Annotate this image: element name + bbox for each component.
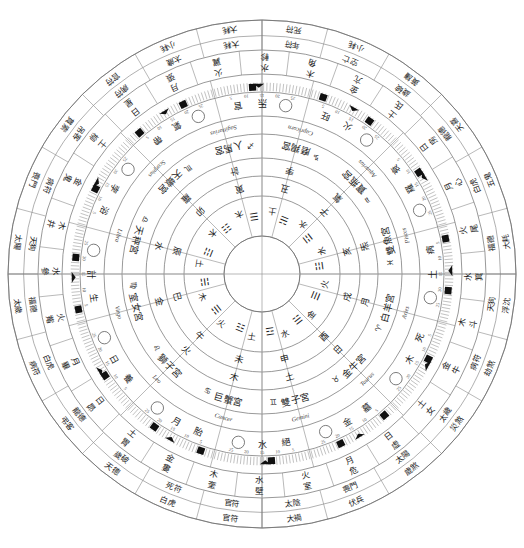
svg-text:土: 土	[427, 270, 438, 279]
svg-text:火: 火	[213, 67, 224, 79]
svg-text:胎: 胎	[192, 424, 204, 438]
svg-text:水: 水	[315, 245, 328, 257]
svg-text:Pisces: Pisces	[399, 227, 410, 246]
svg-text:小耗: 小耗	[347, 39, 365, 53]
svg-text:♏: ♏	[182, 163, 194, 175]
svg-text:土: 土	[267, 205, 277, 216]
svg-text:20: 20	[437, 286, 442, 292]
svg-text:天喜: 天喜	[448, 115, 466, 134]
svg-text:雙魚宮: 雙魚宮	[378, 224, 396, 256]
svg-text:水: 水	[255, 475, 264, 485]
svg-text:福德: 福德	[485, 235, 497, 252]
svg-text:翼: 翼	[210, 56, 221, 68]
svg-text:斗: 斗	[467, 319, 479, 330]
svg-text:福德: 福德	[27, 296, 39, 313]
svg-text:大禍: 大禍	[285, 512, 302, 524]
svg-text:水: 水	[51, 267, 61, 276]
svg-text:10: 10	[275, 449, 281, 454]
svg-text:戌: 戌	[340, 291, 353, 303]
svg-text:吊客: 吊客	[70, 124, 88, 143]
svg-text:土: 土	[247, 332, 257, 343]
svg-text:25: 25	[83, 240, 89, 246]
svg-text:官: 官	[233, 100, 243, 112]
svg-text:10: 10	[243, 93, 249, 98]
svg-text:25: 25	[435, 302, 441, 308]
svg-text:Leo: Leo	[151, 372, 163, 384]
svg-text:官符: 官符	[223, 497, 240, 509]
svg-text:Libra: Libra	[114, 227, 125, 243]
svg-text:心: 心	[452, 176, 465, 188]
svg-text:箕: 箕	[474, 272, 484, 281]
svg-text:10: 10	[437, 255, 442, 261]
svg-text:5: 5	[91, 211, 97, 216]
svg-text:小耗: 小耗	[159, 39, 177, 53]
svg-text:太歲: 太歲	[12, 297, 24, 314]
svg-text:Cancer: Cancer	[214, 411, 234, 423]
svg-text:25: 25	[91, 332, 98, 339]
svg-text:歲破: 歲破	[393, 82, 412, 100]
svg-text:亥: 亥	[340, 246, 353, 258]
svg-text:☳: ☳	[234, 321, 246, 335]
svg-text:孛: 孛	[284, 165, 296, 178]
svg-text:金: 金	[153, 296, 166, 308]
svg-text:墓: 墓	[359, 400, 373, 414]
zodiac-wheel-svg: 白羊宮♈Aries死月戌火☰金牛宮♉Taurus墓日酉金☱雙子宮♊Gemini絕…	[0, 0, 524, 548]
svg-text:炁: 炁	[359, 241, 371, 252]
svg-text:太陽: 太陽	[12, 233, 24, 250]
svg-text:♎: ♎	[139, 214, 150, 224]
svg-text:25: 25	[197, 103, 204, 110]
svg-text:♒: ♒	[362, 194, 373, 205]
svg-text:死: 死	[413, 332, 426, 344]
svg-text:丑: 丑	[279, 183, 290, 195]
svg-text:15: 15	[438, 271, 443, 276]
svg-text:帶: 帶	[151, 133, 164, 146]
svg-text:天德: 天德	[103, 460, 122, 478]
svg-text:15: 15	[259, 93, 264, 98]
svg-text:5: 5	[320, 103, 325, 109]
svg-text:木: 木	[233, 208, 245, 221]
svg-text:月: 月	[359, 296, 371, 307]
svg-text:災煞: 災煞	[448, 414, 466, 433]
svg-text:歲煞: 歲煞	[402, 460, 421, 478]
svg-text:尾: 尾	[468, 222, 480, 233]
svg-text:5: 5	[291, 447, 295, 452]
svg-text:觜: 觜	[44, 315, 56, 326]
svg-text:Virgo: Virgo	[114, 305, 124, 320]
svg-text:♋: ♋	[202, 385, 212, 396]
svg-text:土: 土	[284, 370, 296, 383]
svg-text:15: 15	[260, 450, 265, 455]
svg-text:太歲: 太歲	[436, 405, 454, 424]
svg-text:5: 5	[123, 386, 129, 392]
svg-text:大耗: 大耗	[500, 233, 512, 250]
svg-text:☶: ☶	[201, 246, 215, 258]
svg-text:參: 參	[40, 267, 50, 276]
svg-text:太陰: 太陰	[284, 497, 301, 509]
svg-text:炁: 炁	[258, 98, 267, 108]
svg-text:水: 水	[260, 63, 269, 73]
svg-text:磨羯宮: 磨羯宮	[280, 139, 312, 157]
svg-text:25: 25	[290, 95, 296, 101]
svg-text:5: 5	[84, 303, 89, 307]
svg-text:♊: ♊	[269, 398, 277, 408]
svg-text:15: 15	[81, 272, 86, 277]
svg-text:畢: 畢	[59, 360, 72, 372]
svg-text:♑: ♑	[311, 151, 321, 162]
svg-text:軫: 軫	[260, 52, 269, 62]
svg-text:5: 5	[229, 96, 233, 101]
svg-text:計: 計	[229, 165, 241, 178]
svg-text:天狗: 天狗	[485, 296, 497, 313]
svg-text:水: 水	[463, 272, 473, 281]
svg-text:火: 火	[457, 225, 469, 236]
svg-text:☰: ☰	[249, 210, 259, 222]
svg-text:養: 養	[121, 371, 135, 385]
svg-text:5: 5	[427, 332, 433, 337]
svg-text:死符: 死符	[285, 24, 302, 36]
svg-text:絕: 絕	[280, 436, 290, 448]
svg-text:辰: 辰	[171, 246, 183, 257]
svg-text:大耗: 大耗	[221, 24, 238, 36]
svg-text:♓: ♓	[386, 259, 396, 267]
svg-text:危: 危	[348, 464, 360, 477]
svg-text:5: 5	[396, 156, 402, 162]
svg-text:木: 木	[196, 291, 209, 303]
svg-text:Gemini: Gemini	[291, 411, 311, 423]
